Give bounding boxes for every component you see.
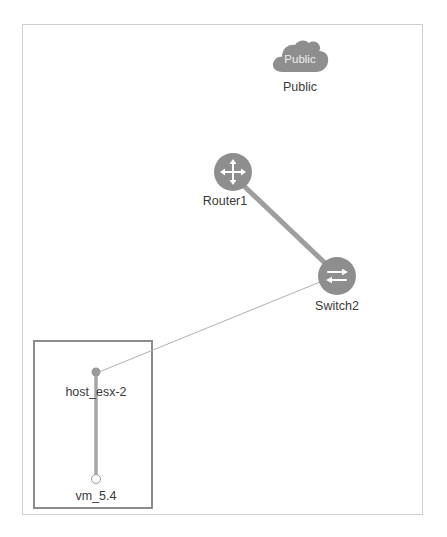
node-router1[interactable] bbox=[214, 153, 252, 191]
switch-circle bbox=[318, 257, 356, 295]
router-circle bbox=[214, 153, 252, 191]
node-vm-5-4-label: vm_5.4 bbox=[76, 489, 117, 503]
node-public[interactable]: Public bbox=[269, 38, 331, 78]
node-router1-label: Router1 bbox=[203, 194, 247, 208]
node-public-label: Public bbox=[283, 80, 317, 94]
node-host-esx-2[interactable] bbox=[92, 368, 101, 377]
node-public-inner-label: Public bbox=[284, 53, 315, 65]
node-switch2-label: Switch2 bbox=[315, 299, 359, 313]
switch-icon bbox=[318, 257, 356, 295]
node-host-esx-2-label: host_esx-2 bbox=[65, 385, 126, 399]
topology-canvas: Public Public Router1 bbox=[0, 0, 447, 537]
host-group-box[interactable] bbox=[33, 340, 153, 509]
router-icon bbox=[214, 153, 252, 191]
node-switch2[interactable] bbox=[318, 257, 356, 295]
node-vm-5-4[interactable] bbox=[91, 474, 101, 484]
